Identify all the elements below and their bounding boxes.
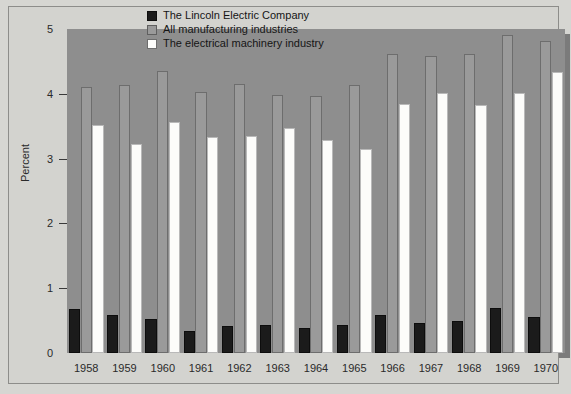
bar-1960-series-2: [169, 122, 180, 353]
legend-item-1: All manufacturing industries: [147, 23, 324, 36]
bar-1967-series-1: [425, 56, 436, 353]
bar-1966-series-0: [375, 315, 386, 353]
x-tick-label-1967: 1967: [419, 362, 443, 374]
chart-frame: 012345 Percent The Lincoln Electric Comp…: [8, 6, 559, 384]
y-axis: 012345: [9, 7, 67, 375]
x-axis: 1958195919601961196219631964196519661967…: [67, 355, 565, 381]
legend-item-2: The electrical machinery industry: [147, 37, 324, 50]
bar-1970-series-0: [528, 317, 539, 353]
x-tick-label-1968: 1968: [457, 362, 481, 374]
y-tick-label-1: 1: [47, 282, 53, 294]
bar-1964-series-2: [322, 140, 333, 353]
legend-label-0: The Lincoln Electric Company: [163, 10, 309, 21]
x-tick-label-1962: 1962: [227, 362, 251, 374]
bar-group-1965: [335, 29, 373, 353]
y-tick-mark-1: [59, 288, 67, 289]
bar-group-1969: [488, 29, 526, 353]
legend-swatch-2: [147, 39, 157, 49]
bar-1964-series-1: [310, 96, 321, 353]
bar-group-1970: [527, 29, 565, 353]
bar-1958-series-2: [92, 125, 103, 353]
bar-group-1964: [297, 29, 335, 353]
bar-1966-series-2: [399, 104, 410, 353]
bar-1965-series-0: [337, 325, 348, 354]
bar-1968-series-0: [452, 321, 463, 353]
bar-1962-series-0: [222, 326, 233, 353]
bar-1959-series-0: [107, 315, 118, 353]
bar-1960-series-0: [145, 319, 156, 353]
bar-1965-series-1: [349, 85, 360, 353]
bar-group-1966: [373, 29, 411, 353]
y-tick-label-2: 2: [47, 217, 53, 229]
bar-1967-series-0: [414, 323, 425, 353]
x-tick-label-1959: 1959: [112, 362, 136, 374]
bar-1968-series-2: [475, 105, 486, 353]
legend-label-1: All manufacturing industries: [163, 24, 298, 35]
bar-group-1961: [182, 29, 220, 353]
bar-1961-series-2: [207, 137, 218, 353]
bar-1959-series-1: [119, 85, 130, 353]
x-tick-label-1964: 1964: [304, 362, 328, 374]
y-tick-label-4: 4: [47, 88, 53, 100]
bar-group-1960: [144, 29, 182, 353]
bar-1969-series-1: [502, 35, 513, 353]
y-tick-label-0: 0: [47, 347, 53, 359]
bar-1964-series-0: [299, 328, 310, 353]
bar-1963-series-1: [272, 95, 283, 353]
bar-group-1958: [67, 29, 105, 353]
y-tick-label-5: 5: [47, 23, 53, 35]
bar-group-1967: [412, 29, 450, 353]
bar-group-1968: [450, 29, 488, 353]
bar-1960-series-1: [157, 71, 168, 353]
bar-1961-series-0: [184, 331, 195, 353]
x-tick-label-1961: 1961: [189, 362, 213, 374]
bar-1963-series-0: [260, 325, 271, 353]
bar-1970-series-2: [552, 72, 563, 353]
bar-1958-series-0: [69, 309, 80, 353]
x-tick-label-1969: 1969: [495, 362, 519, 374]
bar-1962-series-2: [246, 136, 257, 353]
bar-1958-series-1: [81, 87, 92, 353]
bar-group-1962: [220, 29, 258, 353]
plot-area: [67, 29, 565, 353]
y-tick-mark-3: [59, 159, 67, 160]
bar-1959-series-2: [131, 144, 142, 353]
x-tick-label-1960: 1960: [151, 362, 175, 374]
legend-label-2: The electrical machinery industry: [163, 38, 324, 49]
bar-1962-series-1: [234, 84, 245, 353]
bar-1965-series-2: [360, 149, 371, 353]
chart-legend: The Lincoln Electric CompanyAll manufact…: [147, 9, 324, 51]
y-axis-title: Percent: [19, 103, 31, 223]
y-tick-mark-2: [59, 223, 67, 224]
bar-1963-series-2: [284, 128, 295, 353]
y-tick-label-3: 3: [47, 153, 53, 165]
bar-container: [67, 29, 565, 353]
bar-1967-series-2: [437, 93, 448, 353]
legend-swatch-1: [147, 25, 157, 35]
bar-1966-series-1: [387, 54, 398, 353]
legend-swatch-0: [147, 11, 157, 21]
bar-1961-series-1: [195, 92, 206, 353]
bar-1970-series-1: [540, 41, 551, 353]
x-tick-label-1965: 1965: [342, 362, 366, 374]
bar-1968-series-1: [464, 54, 475, 353]
bar-group-1959: [105, 29, 143, 353]
bar-1969-series-0: [490, 308, 501, 353]
x-tick-label-1970: 1970: [534, 362, 558, 374]
y-tick-mark-4: [59, 94, 67, 95]
x-tick-label-1966: 1966: [380, 362, 404, 374]
x-tick-label-1958: 1958: [74, 362, 98, 374]
bar-1969-series-2: [514, 93, 525, 353]
legend-item-0: The Lincoln Electric Company: [147, 9, 324, 22]
x-tick-label-1963: 1963: [265, 362, 289, 374]
bar-group-1963: [259, 29, 297, 353]
